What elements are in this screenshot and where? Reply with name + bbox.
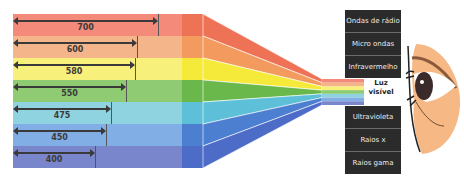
wavelength-end-tick: [106, 124, 107, 146]
band-475: 475: [13, 102, 182, 124]
dimension-arrow: [16, 42, 134, 44]
wavelength-end-tick: [137, 36, 138, 58]
wavelength-label: 580: [54, 67, 94, 76]
label-radio-waves: Ondas de rádio: [345, 10, 401, 33]
label-x-rays: Raios x: [345, 129, 401, 152]
wavelength-end-tick: [135, 58, 136, 80]
wavelength-end-tick: [95, 146, 96, 168]
wavelength-end-tick: [158, 14, 159, 36]
label-microwaves: Micro ondas: [345, 33, 401, 56]
spectrum-bottom-list: Ultravioleta Raios x Raios gama: [345, 106, 401, 174]
wavelength-label: 450: [40, 133, 80, 142]
band-450: 450: [13, 124, 182, 146]
dimension-arrow: [16, 64, 132, 66]
spectrum-top-list: Ondas de rádio Micro ondas Infravermelho: [345, 10, 401, 78]
label-gamma-rays: Raios gama: [345, 152, 401, 174]
visible-light-line2: visível: [364, 88, 398, 97]
visible-light-line1: Luz: [364, 79, 398, 88]
dimension-arrow: [16, 108, 108, 110]
label-ultraviolet: Ultravioleta: [345, 106, 401, 129]
wavelength-label: 475: [42, 111, 82, 120]
wavelength-label: 700: [66, 23, 106, 32]
eye-icon: [404, 40, 464, 160]
label-infrared: Infravermelho: [345, 56, 401, 78]
visible-light-label: Luz visível: [364, 79, 398, 97]
band-580: 580: [13, 58, 182, 80]
wavelength-label: 600: [55, 45, 95, 54]
wavelength-label: 550: [50, 89, 90, 98]
dimension-arrow: [16, 20, 155, 22]
wavelength-label: 400: [34, 155, 74, 164]
electromagnetic-spectrum-diagram: 700600580550475450400 Ondas de rádio Mic…: [0, 0, 464, 179]
dimension-arrow: [16, 130, 103, 132]
dimension-arrow: [16, 86, 123, 88]
band-400: 400: [13, 146, 182, 168]
band-550: 550: [13, 80, 182, 102]
band-700: 700: [13, 14, 182, 36]
wavelength-end-tick: [111, 102, 112, 124]
band-600: 600: [13, 36, 182, 58]
wavelength-end-tick: [126, 80, 127, 102]
dimension-arrow: [16, 152, 92, 154]
